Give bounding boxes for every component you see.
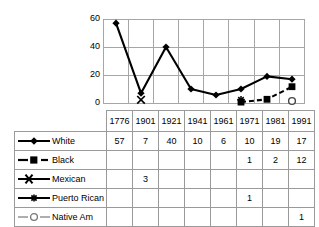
table-row-white: White 57 7 40 10 6 10 19 17 bbox=[15, 132, 315, 151]
series-puerto-rican bbox=[237, 96, 245, 104]
data-table: 1776 1901 1921 1941 1961 1971 1981 1991 bbox=[14, 110, 315, 227]
cell-native-am-1961 bbox=[211, 208, 237, 227]
year-header-1776: 1776 bbox=[107, 111, 133, 132]
legend-key-white: White bbox=[15, 132, 107, 151]
legend-marker-asterisk-icon bbox=[17, 192, 51, 204]
cell-puerto-rican-1991 bbox=[289, 189, 315, 208]
cell-puerto-rican-1981 bbox=[263, 189, 289, 208]
series-native-am bbox=[289, 98, 296, 105]
cell-puerto-rican-1901 bbox=[133, 189, 159, 208]
legend-label-black: Black bbox=[52, 155, 74, 165]
year-header-1901: 1901 bbox=[133, 111, 159, 132]
cell-mexican-1776 bbox=[107, 170, 133, 189]
cell-puerto-rican-1921 bbox=[159, 189, 185, 208]
cell-puerto-rican-1776 bbox=[107, 189, 133, 208]
legend-key-mexican: Mexican bbox=[15, 170, 107, 189]
cell-white-1901: 7 bbox=[133, 132, 159, 151]
year-header-1921: 1921 bbox=[159, 111, 185, 132]
cell-black-1991: 12 bbox=[289, 151, 315, 170]
cell-black-1901 bbox=[133, 151, 159, 170]
cell-mexican-1961 bbox=[211, 170, 237, 189]
legend-label-puerto-rican: Puerto Rican bbox=[52, 193, 104, 203]
cell-native-am-1776 bbox=[107, 208, 133, 227]
legend-key-puerto-rican: Puerto Rican bbox=[15, 189, 107, 208]
legend-key-black: Black bbox=[15, 151, 107, 170]
year-header-1981: 1981 bbox=[263, 111, 289, 132]
chart-figure: 60 40 20 0 bbox=[0, 0, 319, 227]
table-header-row: 1776 1901 1921 1941 1961 1971 1981 1991 bbox=[15, 111, 315, 132]
cell-white-1921: 40 bbox=[159, 132, 185, 151]
cell-mexican-1991 bbox=[289, 170, 315, 189]
legend-marker-x-cross-icon bbox=[17, 173, 51, 185]
cell-native-am-1981 bbox=[263, 208, 289, 227]
cell-native-am-1971 bbox=[237, 208, 263, 227]
table-corner-cell bbox=[15, 111, 107, 132]
cell-mexican-1941 bbox=[185, 170, 211, 189]
cell-white-1941: 10 bbox=[185, 132, 211, 151]
table-row-puerto-rican: Puerto Rican 1 bbox=[15, 189, 315, 208]
cell-black-1921 bbox=[159, 151, 185, 170]
cell-black-1776 bbox=[107, 151, 133, 170]
legend-key-native-am: Native Am bbox=[15, 208, 107, 227]
year-header-1971: 1971 bbox=[237, 111, 263, 132]
cell-black-1961 bbox=[211, 151, 237, 170]
legend-marker-filled-diamond-icon bbox=[17, 135, 51, 147]
cell-mexican-1981 bbox=[263, 170, 289, 189]
cell-native-am-1921 bbox=[159, 208, 185, 227]
chart-data-table: 1776 1901 1921 1941 1961 1971 1981 1991 bbox=[14, 110, 315, 227]
cell-mexican-1901: 3 bbox=[133, 170, 159, 189]
cell-puerto-rican-1941 bbox=[185, 189, 211, 208]
legend-label-white: White bbox=[52, 136, 75, 146]
cell-mexican-1971 bbox=[237, 170, 263, 189]
legend-marker-filled-square-icon bbox=[17, 154, 51, 166]
year-header-1941: 1941 bbox=[185, 111, 211, 132]
table-row-mexican: Mexican 3 bbox=[15, 170, 315, 189]
cell-white-1776: 57 bbox=[107, 132, 133, 151]
table-row-black: Black 1 2 12 bbox=[15, 151, 315, 170]
cell-white-1991: 17 bbox=[289, 132, 315, 151]
cell-black-1941 bbox=[185, 151, 211, 170]
cell-white-1981: 19 bbox=[263, 132, 289, 151]
cell-white-1961: 6 bbox=[211, 132, 237, 151]
year-header-1961: 1961 bbox=[211, 111, 237, 132]
cell-native-am-1901 bbox=[133, 208, 159, 227]
legend-label-native-am: Native Am bbox=[52, 212, 93, 222]
legend-label-mexican: Mexican bbox=[52, 174, 86, 184]
series-mexican bbox=[137, 96, 145, 104]
cell-mexican-1921 bbox=[159, 170, 185, 189]
cell-black-1971: 1 bbox=[237, 151, 263, 170]
cell-native-am-1941 bbox=[185, 208, 211, 227]
cell-white-1971: 10 bbox=[237, 132, 263, 151]
year-header-1991: 1991 bbox=[289, 111, 315, 132]
cell-native-am-1991: 1 bbox=[289, 208, 315, 227]
cell-puerto-rican-1961 bbox=[211, 189, 237, 208]
legend-marker-open-circle-icon bbox=[17, 211, 51, 223]
cell-puerto-rican-1971: 1 bbox=[237, 189, 263, 208]
table-row-native-am: Native Am 1 bbox=[15, 208, 315, 227]
cell-black-1981: 2 bbox=[263, 151, 289, 170]
